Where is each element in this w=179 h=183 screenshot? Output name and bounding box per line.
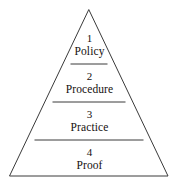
pyramid-diagram: 1 Policy 2 Procedure 3 Practice 4 Proof: [0, 0, 179, 183]
pyramid-outline-svg: [0, 0, 179, 183]
pyramid-outline-shape: [10, 10, 168, 176]
